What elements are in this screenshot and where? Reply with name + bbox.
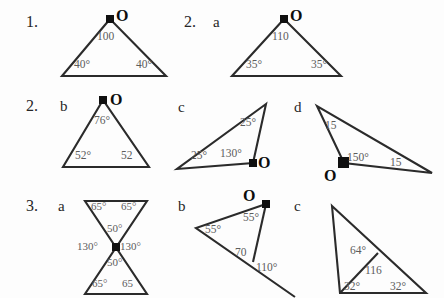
angle-label-fig3c-exterior: 64° <box>350 245 366 257</box>
vertex-label-o-fig1: O <box>116 8 128 24</box>
angle-label-fig2d-top: 15 <box>325 120 337 132</box>
vertex-dot-o-fig2b <box>99 96 107 104</box>
problem-number-2: 2. <box>26 98 38 114</box>
vertex-label-o-fig3b: O <box>243 188 255 204</box>
angle-label-fig2c-left: 25° <box>191 150 207 162</box>
vertex-label-o-fig2a: O <box>290 8 302 24</box>
angle-label-fig3c-right: 32° <box>390 281 406 293</box>
vertex-label-o-fig2c: O <box>258 155 270 171</box>
problem-number-3: 3. <box>26 198 38 214</box>
angle-label-fig3c-apex: 116 <box>365 265 382 277</box>
angle-label-fig1-apex: 100 <box>97 31 114 43</box>
angle-label-fig3a-top-right: 65° <box>121 201 136 212</box>
angle-label-fig3a-upper-apex: 50° <box>107 223 122 234</box>
part-label-c: c <box>178 100 185 115</box>
angle-label-fig2c-top: 25° <box>240 117 256 129</box>
angle-label-fig2c-o: 130° <box>220 148 242 160</box>
angle-label-fig1-left: 40° <box>74 59 90 71</box>
angle-label-fig3c-left: 32° <box>344 281 360 293</box>
part-label-b: b <box>60 99 68 114</box>
angle-label-fig2d-o: 150° <box>347 152 369 164</box>
angle-label-fig3a-bottom-right: 65 <box>122 278 133 289</box>
vertex-label-o-fig2b: O <box>110 92 122 108</box>
figure-2d-triangle <box>317 106 432 173</box>
angle-label-fig2b-right: 52 <box>121 150 133 162</box>
angle-label-fig1-right: 40° <box>136 59 152 71</box>
angle-label-fig3b-o: 55° <box>243 212 259 224</box>
angle-label-fig2a-apex: 110 <box>272 31 289 43</box>
angle-label-fig2b-apex: 76° <box>94 115 110 127</box>
vertex-dot-o-fig2a <box>280 15 288 23</box>
part-label-3a: a <box>58 199 65 214</box>
angle-label-fig2d-right: 15 <box>390 157 402 169</box>
angle-label-fig3a-top-left: 65° <box>91 201 106 212</box>
part-label-d: d <box>294 100 302 115</box>
vertex-label-o-fig2d: O <box>324 168 336 184</box>
part-label-3c: c <box>294 199 301 214</box>
part-label-a: a <box>213 15 220 30</box>
angle-label-fig3b-left: 55° <box>205 224 221 236</box>
angle-label-fig3a-bottom-left: 65° <box>92 278 107 289</box>
vertex-dot-o-fig3b <box>262 200 270 208</box>
angle-label-fig3a-lower-apex: 50° <box>107 257 122 268</box>
angle-label-fig3b-inner: 70 <box>235 247 247 259</box>
part-label-3b: b <box>178 199 186 214</box>
problem-number-2-row1: 2. <box>184 14 196 30</box>
angle-label-fig2a-left: 35° <box>246 59 262 71</box>
vertex-dot-o-fig1 <box>106 15 114 23</box>
angle-label-fig3b-exterior: 110° <box>256 262 277 274</box>
angle-label-fig3a-right-center: 130° <box>120 241 141 252</box>
angle-label-fig2a-right: 35° <box>311 59 327 71</box>
worksheet-page: 1. O 100 40° 40° 2. a O 110 35° 35° 2. b… <box>0 0 444 298</box>
vertex-dot-center-fig3a <box>112 243 120 251</box>
angle-label-fig3a-left-center: 130° <box>77 241 98 252</box>
vertex-dot-o-fig2c <box>249 159 257 167</box>
angle-label-fig2b-left: 52° <box>75 150 91 162</box>
problem-number-1: 1. <box>26 14 38 30</box>
